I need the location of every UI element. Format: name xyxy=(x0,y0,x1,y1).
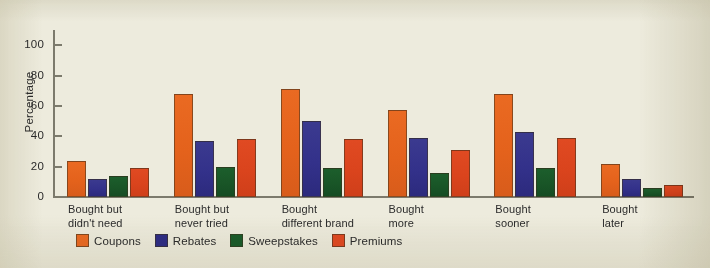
bar-premiums-3 xyxy=(344,139,363,197)
bar-sweepstakes-3 xyxy=(323,168,342,197)
bar-coupons-3 xyxy=(281,89,300,197)
bar-sweepstakes-4 xyxy=(430,173,449,197)
legend-label: Coupons xyxy=(94,235,141,247)
x-category-label: Bought different brand xyxy=(282,203,383,230)
bar-group xyxy=(281,30,363,197)
bar-sweepstakes-2 xyxy=(216,167,235,197)
bar-premiums-1 xyxy=(130,168,149,197)
y-tick-label: 40 xyxy=(0,129,44,141)
bar-group xyxy=(601,30,683,197)
legend-swatch-icon xyxy=(76,234,89,247)
legend-item-coupons[interactable]: Coupons xyxy=(76,234,141,247)
y-tick-label: 80 xyxy=(0,69,44,81)
bar-coupons-5 xyxy=(494,94,513,197)
x-category-label: Bought sooner xyxy=(495,203,596,230)
legend-label: Sweepstakes xyxy=(248,235,318,247)
bar-premiums-4 xyxy=(451,150,470,197)
y-tick-label: 100 xyxy=(0,38,44,50)
x-category-label: Bought but didn't need xyxy=(68,203,169,230)
bar-sweepstakes-5 xyxy=(536,168,555,197)
bar-coupons-2 xyxy=(174,94,193,197)
chart-legend: CouponsRebatesSweepstakesPremiums xyxy=(0,234,710,247)
x-category-label: Bought but never tried xyxy=(175,203,276,230)
y-tick-label: 60 xyxy=(0,99,44,111)
bar-rebates-2 xyxy=(195,141,214,197)
legend-item-rebates[interactable]: Rebates xyxy=(155,234,217,247)
legend-label: Rebates xyxy=(173,235,217,247)
bar-sweepstakes-6 xyxy=(643,188,662,197)
bar-group xyxy=(388,30,470,197)
bar-group xyxy=(494,30,576,197)
bar-rebates-3 xyxy=(302,121,321,197)
legend-item-sweepstakes[interactable]: Sweepstakes xyxy=(230,234,318,247)
legend-item-premiums[interactable]: Premiums xyxy=(332,234,403,247)
legend-label: Premiums xyxy=(350,235,403,247)
chart-plate: Percentage 020406080100 Bought but didn'… xyxy=(0,0,710,268)
bar-premiums-6 xyxy=(664,185,683,197)
bar-group xyxy=(67,30,149,197)
bar-premiums-2 xyxy=(237,139,256,197)
bar-group xyxy=(174,30,256,197)
bar-rebates-5 xyxy=(515,132,534,197)
legend-swatch-icon xyxy=(230,234,243,247)
x-category-label: Bought later xyxy=(602,203,703,230)
bar-rebates-4 xyxy=(409,138,428,197)
bar-premiums-5 xyxy=(557,138,576,197)
y-tick-label: 0 xyxy=(0,190,44,202)
legend-swatch-icon xyxy=(155,234,168,247)
bar-rebates-6 xyxy=(622,179,641,197)
bar-rebates-1 xyxy=(88,179,107,197)
y-tick-label: 20 xyxy=(0,160,44,172)
bar-coupons-1 xyxy=(67,161,86,197)
bar-sweepstakes-1 xyxy=(109,176,128,197)
x-category-label: Bought more xyxy=(389,203,490,230)
bar-coupons-6 xyxy=(601,164,620,197)
plot-area xyxy=(53,30,694,197)
legend-swatch-icon xyxy=(332,234,345,247)
bar-coupons-4 xyxy=(388,110,407,197)
